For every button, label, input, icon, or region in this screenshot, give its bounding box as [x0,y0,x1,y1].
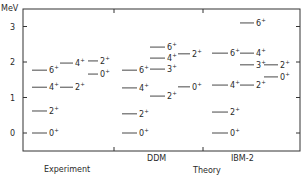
parity-sign: + [144,64,149,70]
group-label-ibm2: IBM-2 [231,154,254,163]
parity-sign: + [144,82,149,88]
parity-sign: + [105,68,110,74]
parity-sign: + [197,48,202,54]
parity-sign: + [261,47,266,53]
parity-sign: + [172,63,177,69]
caption-theory: Theory [192,166,221,175]
parity-sign: + [105,55,110,61]
y-unit-label: MeV [1,4,19,13]
parity-sign: + [235,127,240,133]
parity-sign: + [80,57,85,63]
parity-sign: + [172,52,177,58]
y-tick-label: 1 [10,94,15,103]
parity-sign: + [54,127,59,133]
group-label-experiment: Experiment [44,165,90,174]
parity-sign: + [54,105,59,111]
parity-sign: + [261,59,266,65]
plot-frame [23,9,300,151]
parity-sign: + [80,81,85,87]
parity-sign: + [235,79,240,85]
group-label-ddm: DDM [147,154,166,163]
y-tick-label: 2 [10,58,15,67]
parity-sign: + [285,71,290,77]
parity-sign: + [172,90,177,96]
parity-sign: + [285,59,290,65]
level-scheme-chart: 0123 0+2+4+6+2+4+0+2+0+2+4+6+2+3+4+6+0+2… [0,0,302,176]
parity-sign: + [144,127,149,133]
parity-sign: + [172,41,177,47]
parity-sign: + [144,108,149,114]
parity-sign: + [197,81,202,87]
energy-levels: 0+2+4+6+2+4+0+2+0+2+4+6+2+3+4+6+0+2+0+2+… [32,17,290,138]
parity-sign: + [235,106,240,112]
parity-sign: + [235,47,240,53]
parity-sign: + [54,64,59,70]
y-tick-label: 3 [10,23,15,32]
y-tick-label: 0 [10,129,15,138]
parity-sign: + [261,17,266,23]
parity-sign: + [54,81,59,87]
parity-sign: + [261,79,266,85]
